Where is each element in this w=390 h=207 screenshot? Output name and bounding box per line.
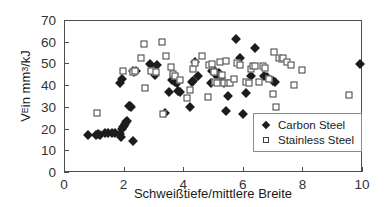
data-point-stainless-steel — [131, 68, 138, 75]
data-point-stainless-steel — [142, 84, 149, 91]
scatter-chart-figure: VE in mm3/kJ 010203040506070 0246810 Sch… — [0, 0, 390, 207]
data-point-stainless-steel — [269, 91, 276, 98]
data-point-stainless-steel — [120, 68, 127, 75]
data-point-carbon-steel — [355, 59, 365, 69]
x-tick-mark — [362, 167, 363, 172]
data-point-carbon-steel — [128, 136, 138, 146]
data-point-stainless-steel — [298, 67, 305, 74]
y-axis-label-main: V — [18, 113, 33, 122]
data-point-carbon-steel — [164, 87, 174, 97]
data-point-stainless-steel — [192, 59, 199, 66]
data-point-carbon-steel — [221, 106, 231, 116]
y-tick-mark — [64, 107, 69, 108]
data-point-stainless-steel — [230, 75, 237, 82]
legend-item-carbon-steel[interactable]: Carbon Steel — [260, 117, 356, 132]
chart-legend: Carbon Steel Stainless Steel — [253, 113, 362, 152]
data-point-stainless-steel — [262, 65, 269, 72]
y-tick-label: 30 — [41, 99, 56, 114]
x-tick-mark — [302, 167, 303, 172]
y-tick-label: 40 — [41, 78, 56, 93]
data-point-carbon-steel — [238, 110, 248, 120]
data-point-carbon-steel — [185, 102, 195, 112]
y-axis-label-superscript: 3 — [20, 67, 30, 72]
legend-label-carbon-steel: Carbon Steel — [278, 119, 345, 131]
data-point-stainless-steel — [218, 71, 225, 78]
open-square-icon — [260, 137, 272, 143]
y-tick-label: 10 — [41, 143, 56, 158]
data-point-stainless-steel — [210, 69, 217, 76]
data-point-stainless-steel — [345, 92, 352, 99]
y-tick-label: 50 — [41, 56, 56, 71]
data-point-stainless-steel — [245, 80, 252, 87]
data-point-stainless-steel — [94, 109, 101, 116]
data-point-carbon-steel — [231, 34, 241, 44]
legend-item-stainless-steel[interactable]: Stainless Steel — [260, 133, 356, 148]
y-tick-mark — [64, 129, 69, 130]
x-tick-mark — [243, 167, 244, 172]
y-tick-mark — [64, 20, 69, 21]
data-point-stainless-steel — [256, 79, 263, 86]
data-point-stainless-steel — [183, 95, 190, 102]
x-tick-mark — [183, 167, 184, 172]
x-tick-mark — [64, 167, 65, 172]
y-tick-mark — [64, 150, 69, 151]
y-tick-label: 20 — [41, 121, 56, 136]
data-point-stainless-steel — [273, 103, 280, 110]
y-tick-mark — [64, 42, 69, 43]
data-point-stainless-steel — [159, 110, 166, 117]
data-point-stainless-steel — [158, 38, 165, 45]
data-point-stainless-steel — [167, 63, 174, 70]
data-point-carbon-steel — [224, 91, 234, 101]
data-point-stainless-steel — [237, 61, 244, 68]
filled-diamond-icon — [260, 122, 272, 128]
y-tick-mark — [64, 85, 69, 86]
data-point-stainless-steel — [176, 77, 183, 84]
data-point-stainless-steel — [266, 76, 273, 83]
y-tick-label: 0 — [48, 165, 56, 180]
x-tick-mark — [124, 167, 125, 172]
legend-label-stainless-steel: Stainless Steel — [278, 134, 354, 146]
data-point-stainless-steel — [223, 58, 230, 65]
y-tick-mark — [64, 63, 69, 64]
data-point-stainless-steel — [189, 66, 196, 73]
data-point-stainless-steel — [140, 41, 147, 48]
data-point-carbon-steel — [241, 88, 251, 98]
y-axis-label-mid: in mm — [18, 72, 33, 107]
data-point-stainless-steel — [198, 52, 205, 59]
data-point-stainless-steel — [288, 61, 295, 68]
y-tick-label: 60 — [41, 34, 56, 49]
data-point-stainless-steel — [152, 68, 159, 75]
x-axis-label: Schweißtiefe/mittlere Breite — [64, 186, 362, 201]
y-axis-label-tail: /kJ — [18, 50, 33, 67]
data-point-stainless-steel — [186, 87, 193, 94]
data-point-carbon-steel — [250, 43, 260, 53]
y-tick-label: 70 — [41, 13, 56, 28]
y-axis-label-subscript: E — [20, 107, 30, 113]
data-point-stainless-steel — [137, 55, 144, 62]
y-tick-mark — [64, 172, 69, 173]
data-point-stainless-steel — [291, 82, 298, 89]
y-axis-label: VE in mm3/kJ — [14, 0, 36, 172]
data-point-stainless-steel — [252, 63, 259, 70]
data-point-stainless-steel — [208, 60, 215, 67]
data-point-stainless-steel — [162, 53, 169, 60]
data-point-stainless-steel — [204, 93, 211, 100]
